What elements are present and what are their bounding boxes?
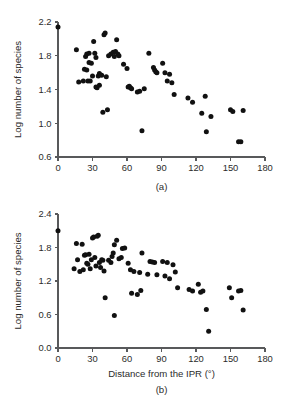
data-point: [103, 295, 108, 300]
data-point: [227, 285, 232, 290]
data-point: [203, 94, 208, 99]
scatter-plot-b: 0.00.61.21.82.40306090120150180Log numbe…: [0, 196, 290, 401]
data-point: [169, 80, 174, 85]
data-point: [88, 266, 93, 271]
data-point: [126, 261, 131, 266]
data-point: [99, 73, 104, 78]
data-point: [129, 291, 134, 296]
x-axis-title: Distance from the IPR (°): [108, 368, 215, 379]
data-point: [204, 129, 209, 134]
data-point: [74, 47, 79, 52]
y-axis-title: Log number of species: [12, 41, 23, 138]
scatter-plot-a: 0.61.01.41.82.20306090120150180Log numbe…: [0, 0, 290, 196]
data-point: [146, 51, 151, 56]
x-axis-tick-label: 90: [156, 162, 166, 173]
data-point: [160, 259, 165, 264]
data-point: [142, 86, 147, 91]
y-axis-tick-label: 1.2: [38, 275, 51, 286]
data-point: [230, 109, 235, 114]
data-point: [102, 268, 107, 273]
data-point: [56, 228, 61, 233]
data-point: [84, 68, 89, 73]
data-point: [104, 74, 109, 79]
data-point: [173, 270, 178, 275]
data-point: [88, 79, 93, 84]
data-point: [122, 246, 127, 251]
data-point: [138, 288, 143, 293]
data-point: [129, 86, 134, 91]
data-point: [114, 37, 119, 42]
data-point: [56, 25, 61, 30]
data-point: [167, 276, 172, 281]
x-axis-tick-label: 0: [55, 162, 60, 173]
data-point: [119, 255, 124, 260]
data-point: [200, 289, 205, 294]
y-axis-tick-label: 1.4: [38, 84, 51, 95]
data-point: [131, 269, 136, 274]
data-point: [139, 128, 144, 133]
data-point: [75, 257, 80, 262]
data-point: [206, 329, 211, 334]
data-point: [199, 111, 204, 116]
data-point: [145, 272, 150, 277]
data-point: [171, 262, 176, 267]
data-point: [204, 307, 209, 312]
data-point: [108, 260, 113, 265]
data-point: [125, 66, 130, 71]
x-axis-tick-label: 60: [122, 162, 132, 173]
data-point: [72, 266, 77, 271]
data-point: [185, 95, 190, 100]
data-point: [167, 72, 172, 77]
data-point: [85, 262, 90, 267]
data-point: [97, 83, 102, 88]
data-point: [112, 313, 117, 318]
y-axis-tick-label: 0.0: [38, 342, 51, 353]
data-point: [114, 238, 119, 243]
data-point: [152, 260, 157, 265]
data-point: [112, 242, 117, 247]
y-axis-tick-label: 1.0: [38, 118, 51, 129]
x-axis-tick-label: 0: [55, 353, 60, 364]
data-point: [165, 79, 170, 84]
data-point: [229, 295, 234, 300]
data-point: [91, 39, 96, 44]
x-axis-tick-label: 180: [257, 353, 273, 364]
x-axis-tick-label: 90: [156, 353, 166, 364]
data-point: [81, 267, 86, 272]
x-axis-tick-label: 180: [257, 162, 273, 173]
y-axis-tick-label: 2.2: [38, 16, 51, 27]
data-point: [137, 270, 142, 275]
data-point: [241, 108, 246, 113]
data-point: [137, 89, 142, 94]
data-point: [90, 74, 95, 79]
data-point: [96, 233, 101, 238]
data-point: [190, 289, 195, 294]
data-point: [80, 242, 85, 247]
data-point: [135, 292, 140, 297]
data-point: [172, 92, 177, 97]
panel-caption: (a): [156, 181, 168, 192]
data-point: [87, 51, 92, 56]
data-point: [162, 273, 167, 278]
data-point: [241, 308, 246, 313]
y-axis-tick-label: 0.6: [38, 309, 51, 320]
scatter-panel-b: 0.00.61.21.82.40306090120150180Log numbe…: [0, 196, 290, 401]
x-axis-tick-label: 150: [223, 162, 239, 173]
data-point: [81, 79, 86, 84]
data-point-group: [56, 228, 246, 334]
data-point: [93, 55, 98, 60]
y-axis-title: Log number of species: [12, 232, 23, 329]
data-point: [92, 51, 97, 56]
data-point: [238, 288, 243, 293]
data-point: [100, 110, 105, 115]
data-point: [154, 272, 159, 277]
y-axis-tick-label: 1.8: [38, 242, 51, 253]
figure-container: 0.61.01.41.82.20306090120150180Log numbe…: [0, 0, 290, 401]
data-point: [154, 70, 159, 75]
data-point-group: [56, 25, 246, 145]
y-axis-tick-label: 2.4: [38, 208, 51, 219]
data-point: [103, 30, 108, 35]
data-point: [238, 139, 243, 144]
data-point: [139, 251, 144, 256]
data-point: [162, 70, 167, 75]
